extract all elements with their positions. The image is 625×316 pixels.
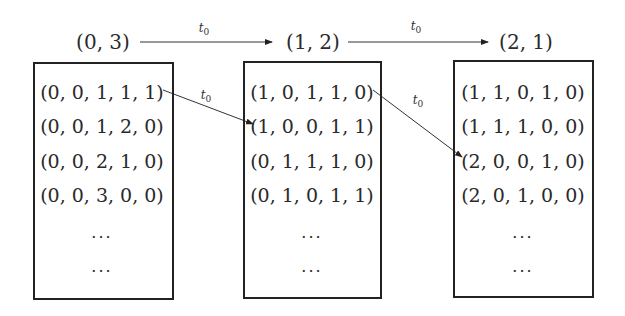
ellipsis: ··· bbox=[91, 228, 112, 247]
ellipsis: ··· bbox=[512, 262, 533, 281]
transition-subscript: 0 bbox=[418, 99, 424, 109]
configuration-tuple: (2, 0, 1, 0, 0) bbox=[461, 184, 585, 206]
state-label: (1, 2) bbox=[286, 30, 340, 54]
state-label: (2, 1) bbox=[499, 30, 553, 54]
configuration-tuple: (0, 0, 3, 0, 0) bbox=[40, 184, 164, 206]
transition-label: t0 bbox=[201, 88, 212, 104]
transition-label: t0 bbox=[411, 19, 422, 35]
transition-subscript: 0 bbox=[416, 25, 422, 35]
configuration-tuple: (0, 0, 2, 1, 0) bbox=[40, 150, 164, 172]
state-label: (0, 3) bbox=[76, 30, 130, 54]
configuration-tuple: (2, 0, 0, 1, 0) bbox=[461, 150, 585, 172]
configuration-tuple: (0, 0, 1, 2, 0) bbox=[40, 115, 164, 137]
transition-label: t0 bbox=[199, 21, 210, 37]
ellipsis: ··· bbox=[301, 262, 322, 281]
configuration-tuple: (1, 0, 0, 1, 1) bbox=[250, 115, 374, 137]
ellipsis: ··· bbox=[301, 228, 322, 247]
ellipsis: ··· bbox=[512, 228, 533, 247]
configuration-tuple: (1, 1, 0, 1, 0) bbox=[461, 81, 585, 103]
configuration-tuple: (1, 0, 1, 1, 0) bbox=[250, 81, 374, 103]
configuration-tuple: (0, 1, 0, 1, 1) bbox=[250, 184, 374, 206]
configuration-tuple: (1, 1, 1, 0, 0) bbox=[461, 115, 585, 137]
ellipsis: ··· bbox=[91, 262, 112, 281]
configuration-tuple: (0, 0, 1, 1, 1) bbox=[40, 81, 164, 103]
configuration-tuple: (0, 1, 1, 1, 0) bbox=[250, 150, 374, 172]
transition-subscript: 0 bbox=[206, 94, 212, 104]
transition-subscript: 0 bbox=[204, 27, 210, 37]
transition-label: t0 bbox=[413, 93, 424, 109]
